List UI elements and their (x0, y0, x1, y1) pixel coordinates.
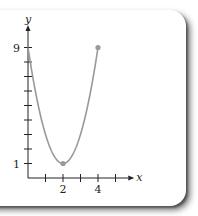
series-line-parabola (28, 48, 98, 164)
x-tick-label: 4 (95, 183, 102, 196)
y-axis-label: y (24, 13, 32, 26)
x-axis-label: x (136, 171, 143, 184)
point-endpoint (95, 45, 100, 50)
axes: x y (24, 13, 143, 184)
x-axis-arrow-icon (128, 176, 134, 181)
series (28, 48, 98, 164)
chart-svg: x y 2491 (0, 0, 198, 216)
points (60, 45, 100, 166)
x-tick-label: 2 (60, 183, 67, 196)
y-tick-label: 9 (13, 42, 20, 55)
point-vertex (60, 161, 65, 166)
y-tick-label: 1 (13, 158, 20, 171)
